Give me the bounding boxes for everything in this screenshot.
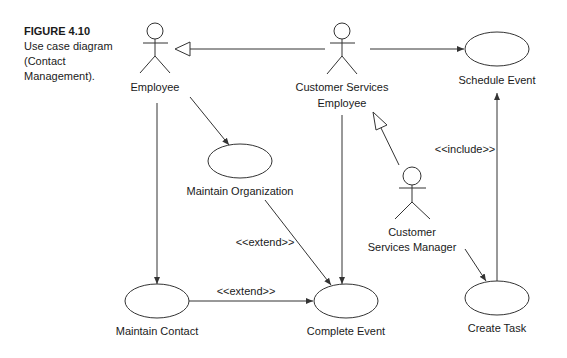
stereotype-label: <<include>> bbox=[435, 143, 496, 155]
actor-label: Services Manager bbox=[368, 241, 457, 253]
use-case-label: Complete Event bbox=[307, 325, 385, 337]
actor-label: Customer bbox=[388, 226, 436, 238]
stereotype-label: <<extend>> bbox=[236, 236, 295, 248]
use-case-create-task[interactable]: Create Task bbox=[465, 281, 529, 334]
actor-customer-services-employee[interactable]: Customer Services Employee bbox=[296, 23, 389, 109]
actor-employee[interactable]: Employee bbox=[131, 23, 180, 93]
stick-figure-icon bbox=[140, 23, 170, 73]
use-case-maintain-organization[interactable]: Maintain Organization bbox=[186, 144, 293, 197]
hollow-triangle-icon bbox=[175, 42, 190, 56]
hollow-triangle-icon bbox=[373, 112, 387, 130]
use-case-label: Maintain Contact bbox=[116, 325, 199, 337]
actor-label: Customer Services bbox=[296, 81, 389, 93]
association-csm-create-task bbox=[465, 249, 486, 281]
use-case-label: Create Task bbox=[468, 322, 527, 334]
generalization-csm-to-cse bbox=[373, 112, 399, 165]
actor-label: Employee bbox=[131, 81, 180, 93]
use-case-schedule-event[interactable]: Schedule Event bbox=[458, 32, 535, 86]
use-case-maintain-contact[interactable]: Maintain Contact bbox=[116, 284, 199, 337]
use-case-label: Schedule Event bbox=[458, 74, 535, 86]
use-case-complete-event[interactable]: Complete Event bbox=[307, 284, 385, 337]
stereotype-label: <<extend>> bbox=[217, 285, 276, 297]
association-employee-maintain-org bbox=[190, 97, 229, 145]
actor-customer-services-manager[interactable]: Customer Services Manager bbox=[368, 167, 457, 253]
actor-label: Employee bbox=[318, 97, 367, 109]
use-case-label: Maintain Organization bbox=[186, 185, 293, 197]
use-case-diagram: Employee Customer Services Employee Cust… bbox=[0, 0, 567, 358]
stick-figure-icon bbox=[395, 167, 430, 219]
generalization-cse-to-employee bbox=[175, 42, 325, 56]
stick-figure-icon bbox=[327, 23, 357, 74]
